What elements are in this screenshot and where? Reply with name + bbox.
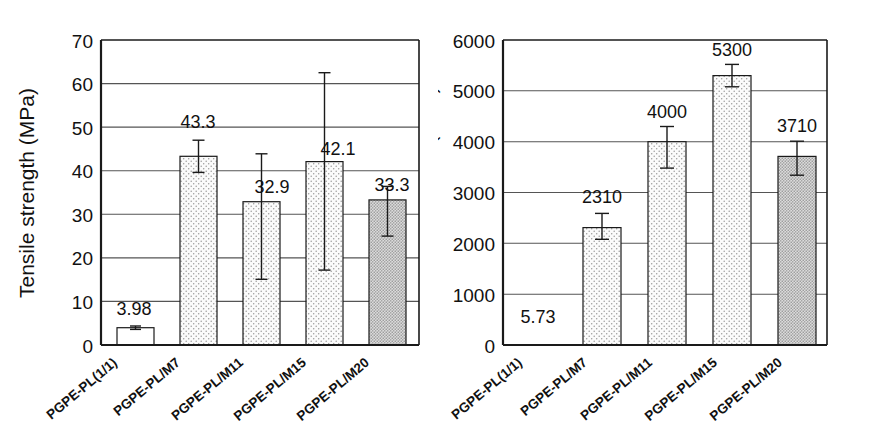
y-tick-30: 30 xyxy=(72,205,93,226)
y-tick-70: 70 xyxy=(72,31,93,52)
bar-pgpe-pl-m7[interactable] xyxy=(583,213,621,345)
chart-panel-tensile-modulus: 0 1000 2000 3000 4000 5000 6000 5.73 231… xyxy=(438,0,876,442)
value-label-pgpe-pl-m20: 3710 xyxy=(777,116,817,136)
value-label-pgpe-pl-m15: 42.1 xyxy=(320,139,355,159)
y-tick-2000: 2000 xyxy=(453,234,495,255)
value-label-pgpe-pl-m11: 32.9 xyxy=(254,177,289,197)
y-axis-tick-labels: 0 10 20 30 40 50 60 70 xyxy=(72,31,93,357)
value-label-pgpe-pl-m15: 5300 xyxy=(712,40,752,60)
value-label-pgpe-pl-m7: 2310 xyxy=(582,187,622,207)
value-label-pgpe-pl-m20: 33.3 xyxy=(374,175,409,195)
figure-container: 0 10 20 30 40 50 60 70 3.98 43.3 32.9 42… xyxy=(0,0,876,442)
tensile-strength-svg: 0 10 20 30 40 50 60 70 3.98 43.3 32.9 42… xyxy=(0,0,438,442)
y-tick-60: 60 xyxy=(72,74,93,95)
tensile-modulus-svg: 0 1000 2000 3000 4000 5000 6000 5.73 231… xyxy=(438,0,876,442)
cat-label-pgpe-pl-1-1[interactable]: PGPE-PL(1/1) xyxy=(449,355,525,422)
x-axis-category-labels: PGPE-PL(1/1) PGPE-PL/M7 PGPE-PL/M11 PGPE… xyxy=(44,354,372,423)
y-axis-title: Tensile modulus (MPa) xyxy=(438,86,440,300)
y-tick-0: 0 xyxy=(82,336,93,357)
y-tick-4000: 4000 xyxy=(453,132,495,153)
y-axis-title: Tensile strength (MPa) xyxy=(15,88,38,298)
y-tick-6000: 6000 xyxy=(453,31,495,52)
value-label-pgpe-pl-1-1: 3.98 xyxy=(116,299,151,319)
value-label-pgpe-pl-m7: 43.3 xyxy=(180,112,215,132)
bar-pgpe-pl-m20[interactable] xyxy=(778,141,816,345)
y-tick-1000: 1000 xyxy=(453,285,495,306)
y-tick-5000: 5000 xyxy=(453,81,495,102)
y-tick-3000: 3000 xyxy=(453,183,495,204)
y-tick-10: 10 xyxy=(72,292,93,313)
y-tick-40: 40 xyxy=(72,161,93,182)
y-tick-20: 20 xyxy=(72,248,93,269)
value-label-pgpe-pl-m11: 4000 xyxy=(647,102,687,122)
bar-pgpe-pl-m20[interactable] xyxy=(369,186,406,345)
bar-pgpe-pl-m11[interactable] xyxy=(648,127,686,346)
bar-pgpe-pl-1-1[interactable] xyxy=(117,326,154,345)
y-tick-0: 0 xyxy=(484,336,495,357)
chart-panel-tensile-strength: 0 10 20 30 40 50 60 70 3.98 43.3 32.9 42… xyxy=(0,0,438,442)
x-axis-category-labels: PGPE-PL(1/1) PGPE-PL/M7 PGPE-PL/M11 PGPE… xyxy=(449,354,785,423)
bar-pgpe-pl-m15[interactable] xyxy=(713,64,751,345)
cat-label-pgpe-pl-1-1[interactable]: PGPE-PL(1/1) xyxy=(44,355,120,422)
y-tick-50: 50 xyxy=(72,118,93,139)
y-axis-tick-labels: 0 1000 2000 3000 4000 5000 6000 xyxy=(453,31,495,357)
bar-pgpe-pl-m7[interactable] xyxy=(180,140,217,345)
value-label-pgpe-pl-1-1: 5.73 xyxy=(520,307,555,327)
